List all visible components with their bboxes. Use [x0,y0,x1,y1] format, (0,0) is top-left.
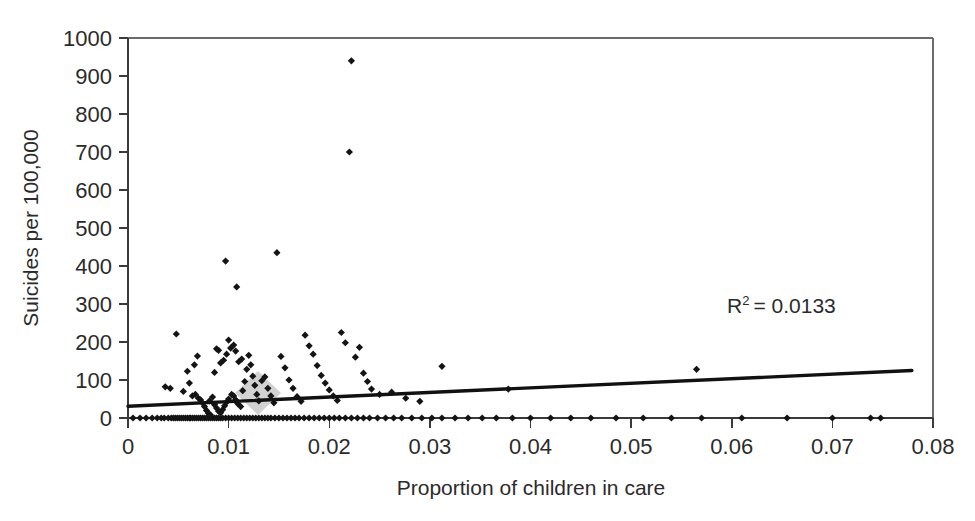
scatter-point [877,414,884,421]
scatter-point [186,379,193,386]
scatter-point [479,414,486,421]
y-tick-label: 700 [75,140,112,165]
r-squared-r: R [727,294,742,317]
scatter-point [567,414,574,421]
y-axis-title: Suicides per 100,000 [19,129,42,326]
scatter-point [191,361,198,368]
scatter-point [451,414,458,421]
scatter-point [374,414,381,421]
scatter-point [222,257,229,264]
scatter-point [245,352,252,359]
scatter-point [314,362,321,369]
x-tick-label: 0.07 [811,434,854,459]
r-squared-value: = 0.0133 [753,294,835,317]
y-tick-label: 0 [100,406,112,431]
scatter-point [348,57,355,64]
scatter-point [640,414,647,421]
scatter-point [277,353,284,360]
scatter-point [438,414,445,421]
scatter-point [408,414,415,421]
scatter-point [509,414,516,421]
scatter-point [326,386,333,393]
scatter-point [402,395,409,402]
x-tick-label: 0.04 [509,434,552,459]
scatter-point [668,414,675,421]
scatter-point [438,363,445,370]
scatter-point [184,368,191,375]
plot-frame [128,38,933,418]
scatter-point [738,414,745,421]
scatter-point [273,249,280,256]
scatter-point [318,372,325,379]
y-tick-label: 300 [75,292,112,317]
plot-canvas: 01002003004005006007008009001000 00.010.… [0,0,975,521]
x-tick-label: 0.01 [207,434,250,459]
scatter-point [129,414,136,421]
scatter-point [223,351,230,358]
scatter-plot-figure: 01002003004005006007008009001000 00.010.… [0,0,975,521]
x-axis-tick-labels: 00.010.020.030.040.050.060.070.08 [122,434,955,459]
y-axis-ticks [119,38,128,418]
scatter-point [364,378,371,385]
scatter-point [360,370,367,377]
scatter-point [368,386,375,393]
scatter-point [338,329,345,336]
scatter-point [302,332,309,339]
scatter-point [398,414,405,421]
scatter-point [356,344,363,351]
y-tick-label: 900 [75,64,112,89]
scatter-point [829,414,836,421]
scatter-point [390,414,397,421]
scatter-point [418,414,425,421]
scatter-point [306,342,313,349]
scatter-point [698,414,705,421]
scatter-point [173,330,180,337]
scatter-point [493,414,500,421]
scatter-point [281,364,288,371]
scatter-point [233,283,240,290]
scatter-point [342,339,349,346]
r-squared-annotation: R2= 0.0133 [727,293,836,317]
scatter-point [346,148,353,155]
scatter-point [587,414,594,421]
x-tick-label: 0 [122,434,134,459]
scatter-point [527,414,534,421]
y-axis-tick-labels: 01002003004005006007008009001000 [63,26,112,431]
scatter-point [225,337,232,344]
scatter-point [465,414,472,421]
y-tick-label: 400 [75,254,112,279]
scatter-point [547,414,554,421]
y-tick-label: 100 [75,368,112,393]
scatter-point [783,414,790,421]
scatter-point [693,366,700,373]
y-tick-label: 600 [75,178,112,203]
scatter-point [194,352,201,359]
scatter-point [289,385,296,392]
y-tick-label: 500 [75,216,112,241]
scatter-point [612,414,619,421]
scatter-point [382,414,389,421]
scatter-point [416,398,423,405]
x-tick-label: 0.03 [408,434,451,459]
y-tick-label: 200 [75,330,112,355]
scatter-markers [129,57,884,421]
scatter-point [867,414,874,421]
scatter-point [352,354,359,361]
x-tick-label: 0.05 [610,434,653,459]
y-tick-label: 1000 [63,26,112,51]
x-tick-label: 0.06 [710,434,753,459]
x-axis-title: Proportion of children in care [397,476,665,499]
x-tick-label: 0.08 [912,434,955,459]
scatter-point [180,388,187,395]
scatter-point [310,351,317,358]
r-squared-exponent: 2 [742,293,749,308]
scatter-point [322,379,329,386]
y-tick-label: 800 [75,102,112,127]
x-tick-label: 0.02 [308,434,351,459]
scatter-point [211,369,218,376]
scatter-point [285,376,292,383]
scatter-point [366,414,373,421]
